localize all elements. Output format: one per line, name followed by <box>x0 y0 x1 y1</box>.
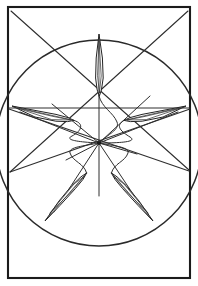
hub-group <box>97 141 101 145</box>
figure-root <box>0 0 198 286</box>
line-art-figure <box>0 0 198 286</box>
center-hub-dot <box>97 141 101 145</box>
